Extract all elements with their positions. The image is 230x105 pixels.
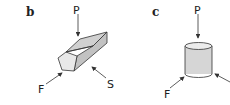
force-label-f: F (164, 88, 170, 101)
cylinder (185, 43, 212, 78)
force-label-s: S (107, 78, 114, 91)
force-label-f: F (38, 83, 44, 96)
force-label-p: P (73, 4, 80, 17)
force-arrow-f (46, 73, 62, 84)
force-label-p: P (194, 4, 201, 17)
force-arrow-f (170, 77, 184, 88)
force-arrow-s (92, 67, 106, 78)
force-arrow-right (215, 74, 230, 82)
panel-label-c: c (152, 5, 159, 19)
panel-label-b: b (26, 5, 34, 19)
pentagonal-prism (58, 32, 107, 72)
